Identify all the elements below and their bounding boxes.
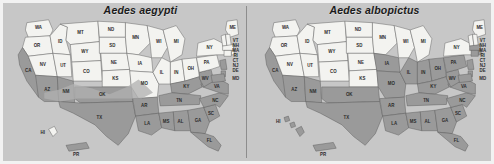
state-MD[interactable] [458,74,473,83]
label-PR: PR [73,152,80,157]
label-NM: NM [310,89,317,94]
label-OK: OK [99,92,106,97]
state-HI-island-2 [284,116,290,122]
label-ID: ID [305,39,309,44]
panel-aedes-aegypti: Aedes aegypti [0,0,247,164]
label-GA: GA [195,118,202,123]
state-CT[interactable] [471,50,478,56]
label-NE: NE [358,60,364,65]
label-MN: MN [379,35,386,40]
label-MT: MT [77,30,84,35]
us-map-aedes-aegypti: WA OR CA NV ID UT AZ MT WY CO NM ND SD N… [0,0,247,164]
label-GA: GA [442,118,449,123]
label-VA: VA [214,84,221,89]
us-map-svg-left: WA OR CA NV ID UT AZ MT WY CO NM ND SD N… [8,11,240,157]
state-PR[interactable] [313,142,336,151]
label-NV: NV [40,62,46,67]
label-KY: KY [183,84,189,89]
label-MO: MO [141,81,149,86]
label-AR: AR [141,103,148,108]
states-group-left [18,20,238,151]
label-AL: AL [425,119,431,124]
label-TN: TN [176,98,182,103]
state-NJ[interactable] [467,59,474,69]
label-OK: OK [346,92,353,97]
state-NJ[interactable] [220,59,227,69]
label-ND: ND [108,27,114,32]
label-IN: IN [174,70,178,75]
label-LA: LA [391,121,398,126]
state-TX[interactable] [59,102,136,146]
label-PA: PA [451,60,458,65]
label-ID: ID [58,39,62,44]
label-MT: MT [324,30,331,35]
label-ND: ND [355,27,361,32]
label-NM: NM [63,89,70,94]
label-IL: IL [160,70,164,75]
label-WI: WI [403,39,408,44]
label-TX: TX [344,115,350,120]
label-LA: LA [144,121,151,126]
panel-title-aedes-albopictus: Aedes albopictus [247,4,494,16]
label-ME: ME [476,25,483,30]
label-WA: WA [282,25,290,30]
label-MS: MS [410,119,417,124]
state-TX[interactable] [306,102,383,146]
label-KS: KS [359,76,365,81]
label-CO: CO [83,69,90,74]
label-SD: SD [356,43,362,48]
label-DE: DE [480,68,486,73]
state-CT[interactable] [224,50,231,56]
label-NV: NV [287,62,293,67]
state-HI[interactable] [49,126,58,136]
label-CO: CO [330,69,337,74]
label-NC: NC [459,98,466,103]
label-KY: KY [430,84,436,89]
label-MI: MI [421,39,426,44]
state-HI[interactable] [296,126,305,136]
label-AL: AL [178,119,184,124]
label-WV: WV [449,76,456,81]
us-map-svg-right: WA OR CA NV ID UT AZ MT WY CO NM ND SD N… [255,11,487,157]
label-OH: OH [187,66,194,71]
label-VA: VA [461,84,468,89]
label-CA: CA [272,68,279,73]
label-PR: PR [320,152,327,157]
label-SD: SD [109,43,115,48]
label-PA: PA [204,60,211,65]
label-DE: DE [233,68,239,73]
label-WY: WY [81,49,88,54]
label-FL: FL [207,138,213,143]
states-group-right [265,20,485,151]
label-MD: MD [479,76,486,81]
label-CA: CA [25,68,32,73]
label-MI: MI [174,39,179,44]
label-OH: OH [434,66,441,71]
us-map-aedes-albopictus: WA OR CA NV ID UT AZ MT WY CO NM ND SD N… [247,0,494,164]
label-NE: NE [111,60,117,65]
label-WY: WY [328,49,335,54]
label-NY: NY [206,45,212,50]
panel-aedes-albopictus: Aedes albopictus [247,0,494,164]
label-TX: TX [97,115,103,120]
state-PR[interactable] [66,142,89,151]
label-IA: IA [138,61,143,66]
distribution-figure: Aedes aegypti [0,0,494,164]
label-MS: MS [163,119,170,124]
label-AZ: AZ [44,87,50,92]
label-MN: MN [132,35,139,40]
label-OR: OR [281,43,288,48]
state-MD[interactable] [211,74,226,83]
label-MO: MO [388,81,396,86]
label-NY: NY [453,45,459,50]
panel-title-aedes-aegypti: Aedes aegypti [0,4,247,16]
label-UT: UT [307,63,313,68]
label-KS: KS [112,76,118,81]
label-IL: IL [407,70,411,75]
label-HI: HI [41,130,45,135]
label-FL: FL [454,138,460,143]
label-IN: IN [421,70,425,75]
label-HI: HI [276,119,280,124]
state-HI-island-3 [290,122,296,128]
label-UT: UT [60,63,66,68]
